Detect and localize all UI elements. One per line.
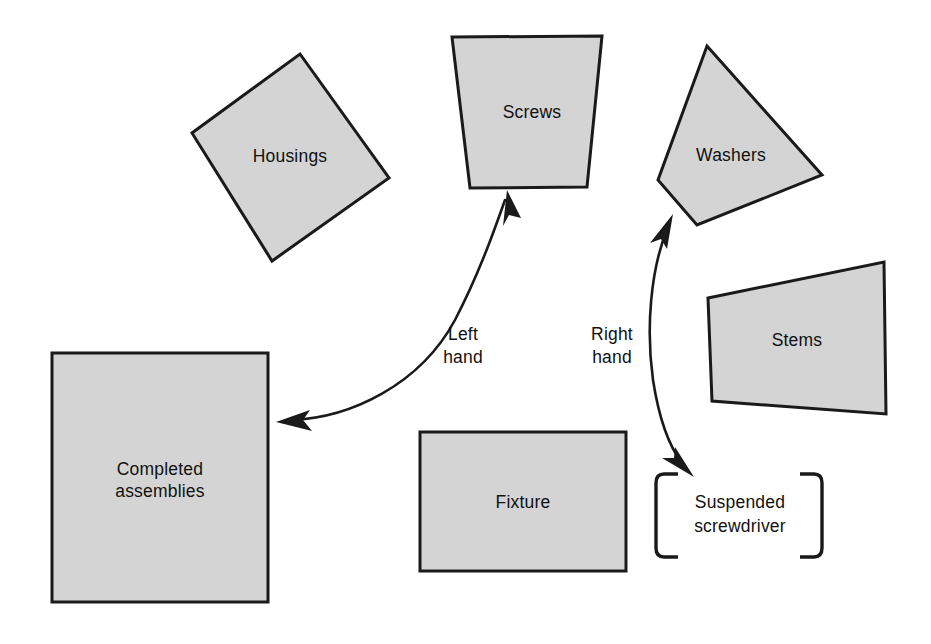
shape-completed-assemblies[interactable]: Completed assemblies	[52, 353, 268, 602]
right-hand-arrow-curve	[650, 227, 682, 463]
right-hand-label-line1: Right	[591, 324, 633, 344]
left-hand-arrow-curve	[291, 200, 505, 420]
shape-washers[interactable]: Washers	[658, 46, 822, 225]
completed-assemblies-label-line1: Completed	[117, 459, 203, 479]
fixture-label: Fixture	[496, 492, 551, 512]
diagram-svg: Housings Screws Washers Stems Completed …	[0, 0, 931, 644]
shape-screws[interactable]: Screws	[452, 36, 602, 188]
left-hand-label-line1: Left	[448, 324, 478, 344]
left-hand-arrowhead-start	[276, 410, 312, 431]
completed-assemblies-label-line2: assemblies	[115, 481, 205, 501]
left-hand-label-line2: hand	[443, 347, 483, 367]
screws-label: Screws	[503, 102, 562, 122]
right-bracket-icon	[800, 474, 822, 557]
left-bracket-icon	[656, 474, 678, 557]
right-hand-label-line2: hand	[592, 347, 632, 367]
housings-label: Housings	[253, 146, 328, 166]
stems-label: Stems	[772, 330, 823, 350]
suspended-screwdriver-label-line1: Suspended	[695, 492, 785, 512]
shape-fixture[interactable]: Fixture	[420, 432, 626, 571]
shape-housings[interactable]: Housings	[192, 54, 389, 261]
washers-label: Washers	[696, 145, 766, 165]
suspended-screwdriver-group[interactable]: Suspended screwdriver	[656, 474, 822, 557]
diagram-canvas: Housings Screws Washers Stems Completed …	[0, 0, 931, 644]
shape-stems[interactable]: Stems	[708, 262, 886, 414]
suspended-screwdriver-label-line2: screwdriver	[694, 516, 786, 536]
washers-polygon	[658, 46, 822, 225]
left-hand-arrowhead-end	[503, 190, 521, 226]
